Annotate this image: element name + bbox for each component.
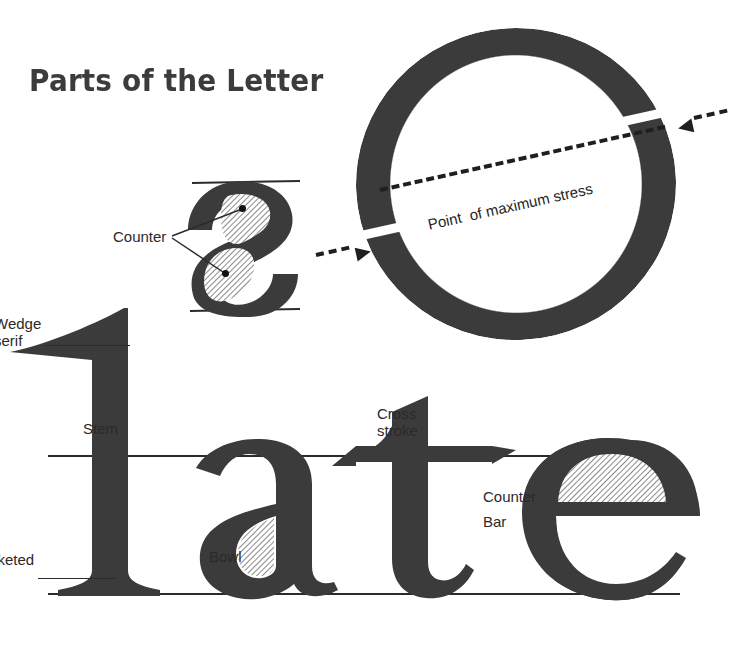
cross-stroke-right-wedge [492,446,516,464]
counter-label-e: Counter [483,489,536,506]
cross-stroke-label: Cross stroke [377,406,418,440]
cross-stroke-line2: stroke [377,422,418,439]
glyph-a [196,439,338,599]
counter-target-dot-upper [239,205,246,212]
cross-stroke-left-wedge [332,446,356,466]
page-title: Parts of the Letter [29,63,323,98]
wedge-serif-line2: serif [0,332,22,349]
bracketed-serif-leader [38,578,116,579]
bracketed-serif-label: cketed f [0,552,34,586]
stress-arrow-tail-right [694,109,728,120]
wedge-serif-line1: Wedge [0,315,41,332]
cross-stroke-bar [356,446,492,462]
stress-arrow-right-icon [677,119,695,136]
word-glyphs-1ate [0,300,737,620]
wedge-serif-label: Wedge serif [0,316,41,350]
counter-label-s: Counter [113,229,166,246]
o-stress-diagram: Point of maximum stress [356,28,676,340]
stress-arrow-left-icon [355,245,373,262]
counter-target-dot-lower [222,270,229,277]
cross-stroke-line1: Cross [377,405,416,422]
bowl-label: Bowl [209,549,242,566]
bar-label-e: Bar [483,514,506,531]
wedge-serif-leader [44,345,130,346]
diagram-canvas: Parts of the Letter Point of maximum str… [0,0,737,659]
stem-label: Stem [83,421,118,438]
bracketed-serif-line1: cketed [0,551,34,568]
